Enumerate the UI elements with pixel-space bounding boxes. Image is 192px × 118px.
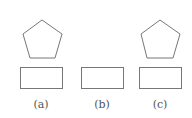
label-b: (b) xyxy=(94,98,110,111)
figure-c: (c) xyxy=(140,20,182,111)
pentagon-a xyxy=(23,20,62,58)
rectangle-b xyxy=(82,68,124,89)
pentagon-c xyxy=(141,20,180,58)
label-a: (a) xyxy=(33,98,48,111)
figure-b: (b) xyxy=(82,68,124,112)
rectangle-a xyxy=(21,68,63,89)
label-c: (c) xyxy=(153,98,168,111)
diagram-canvas: (a) (b) (c) xyxy=(0,0,192,118)
figure-a: (a) xyxy=(21,20,63,111)
rectangle-c xyxy=(140,68,182,89)
